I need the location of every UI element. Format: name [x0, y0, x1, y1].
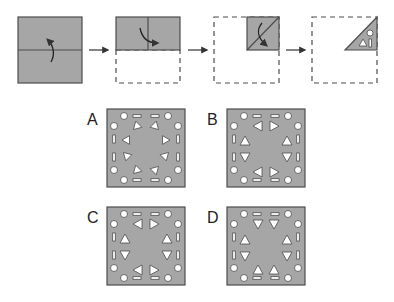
rectangle-hole-icon: [253, 115, 261, 118]
circle-hole-icon: [165, 275, 172, 282]
circle-hole-icon: [165, 113, 172, 120]
rectangle-hole-icon: [253, 277, 261, 280]
circle-hole-icon: [231, 167, 238, 174]
option-square: [107, 207, 185, 285]
fold-step-4: [312, 17, 377, 83]
rectangle-hole-icon: [271, 213, 279, 216]
rectangle-hole-icon: [151, 179, 159, 182]
option-c[interactable]: C: [87, 207, 185, 285]
circle-hole-icon: [165, 177, 172, 184]
circle-hole-icon: [121, 275, 128, 282]
option-label: C: [87, 209, 99, 226]
rectangle-hole-icon: [253, 179, 261, 182]
rectangle-hole-icon: [271, 115, 279, 118]
circle-hole-icon: [121, 113, 128, 120]
circle-hole-icon: [111, 167, 118, 174]
rectangle-hole-icon: [151, 213, 159, 216]
circle-hole-icon: [111, 221, 118, 228]
option-square: [227, 109, 305, 187]
fold-step-1: [18, 17, 82, 83]
circle-hole-icon: [231, 221, 238, 228]
fold-step-2: [116, 17, 180, 83]
answer-options: ABCD: [87, 109, 305, 285]
rectangle-hole-icon: [151, 115, 159, 118]
circle-hole-icon: [111, 123, 118, 130]
rectangle-hole-icon: [113, 153, 116, 161]
dashed-outline: [116, 50, 180, 83]
rectangle-hole-icon: [113, 233, 116, 241]
circle-hole-icon: [231, 123, 238, 130]
rectangle-hole-icon: [177, 153, 180, 161]
circle-hole-icon: [175, 123, 182, 130]
circle-hole-icon: [295, 265, 302, 272]
rectangle-hole-icon: [133, 277, 141, 280]
circle-hole-icon: [175, 221, 182, 228]
option-square: [227, 207, 305, 285]
rectangle-hole-icon: [297, 135, 300, 143]
fold-step-3: [214, 17, 279, 83]
rectangle-hole-icon: [113, 135, 116, 143]
rectangle-hole-icon: [297, 251, 300, 259]
rectangle-hole-icon: [271, 277, 279, 280]
rectangle-hole-icon: [113, 251, 116, 259]
circle-hole-icon: [241, 113, 248, 120]
rectangle-hole-icon: [133, 213, 141, 216]
rectangle-hole-icon: [233, 233, 236, 241]
circle-hole-icon: [295, 123, 302, 130]
rectangle-hole-icon: [297, 233, 300, 241]
rectangle-hole-icon: [271, 179, 279, 182]
rectangle-hole-icon: [253, 213, 261, 216]
circle-hole-icon: [295, 167, 302, 174]
circle-hole-icon: [175, 265, 182, 272]
circle-hole-icon: [175, 167, 182, 174]
option-label: A: [87, 111, 98, 128]
circle-hole-icon: [295, 221, 302, 228]
rectangle-hole-icon: [177, 233, 180, 241]
rectangle-hole-icon: [133, 115, 141, 118]
rectangle-hole-icon: [233, 135, 236, 143]
option-label: D: [207, 209, 219, 226]
circle-hole-icon: [367, 30, 373, 36]
circle-hole-icon: [241, 211, 248, 218]
circle-hole-icon: [121, 177, 128, 184]
circle-hole-icon: [241, 275, 248, 282]
rectangle-hole-icon: [297, 153, 300, 161]
circle-hole-icon: [241, 177, 248, 184]
option-a[interactable]: A: [87, 109, 185, 187]
rectangle-hole-icon: [133, 179, 141, 182]
circle-hole-icon: [165, 211, 172, 218]
puzzle-diagram: ABCD: [0, 0, 394, 302]
option-square: [107, 109, 185, 187]
circle-hole-icon: [285, 275, 292, 282]
rectangle-hole-icon: [233, 153, 236, 161]
circle-hole-icon: [111, 265, 118, 272]
circle-hole-icon: [285, 177, 292, 184]
circle-hole-icon: [121, 211, 128, 218]
rectangle-hole-icon: [233, 251, 236, 259]
rectangle-hole-icon: [151, 277, 159, 280]
circle-hole-icon: [285, 113, 292, 120]
circle-hole-icon: [231, 265, 238, 272]
rectangle-hole-icon: [177, 135, 180, 143]
option-label: B: [207, 111, 218, 128]
option-d[interactable]: D: [207, 207, 305, 285]
rectangle-hole-icon: [369, 39, 372, 47]
circle-hole-icon: [285, 211, 292, 218]
option-b[interactable]: B: [207, 109, 305, 187]
rectangle-hole-icon: [177, 251, 180, 259]
